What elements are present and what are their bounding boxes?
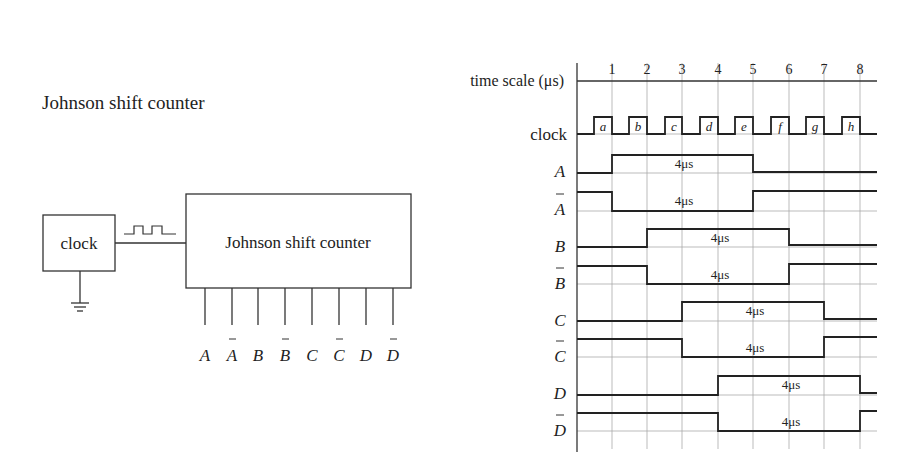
row-label-c: C bbox=[554, 311, 566, 330]
waveform-a-bar bbox=[577, 191, 877, 211]
output-label-d-bar: D bbox=[386, 346, 400, 365]
output-label-c-bar: C bbox=[333, 346, 345, 365]
tick-7: 7 bbox=[821, 62, 828, 77]
waveform-c bbox=[577, 302, 877, 321]
output-label-a: A bbox=[199, 346, 211, 365]
block-diagram bbox=[43, 194, 411, 325]
row-label-b-bar: B bbox=[555, 274, 566, 293]
waveform-d-bar bbox=[577, 411, 877, 431]
clock-pulse-labels: a b c d e f g h bbox=[600, 119, 855, 134]
time-tick-labels: 1 2 3 4 5 6 7 8 bbox=[609, 62, 864, 77]
row-label-b: B bbox=[555, 237, 566, 256]
pulse-label-c: c bbox=[671, 119, 677, 134]
tick-8: 8 bbox=[857, 62, 864, 77]
clock-waveform bbox=[577, 117, 877, 134]
duration-d: 4μs bbox=[782, 377, 801, 392]
pulse-label-a: a bbox=[600, 119, 607, 134]
timing-axes bbox=[577, 63, 877, 452]
tick-2: 2 bbox=[644, 62, 651, 77]
signal-row-labels: A A B B C C D D bbox=[553, 162, 567, 440]
tick-1: 1 bbox=[609, 62, 616, 77]
output-label-b: B bbox=[253, 346, 264, 365]
pulse-label-d: d bbox=[706, 119, 713, 134]
pulse-train-icon bbox=[124, 226, 176, 234]
tick-3: 3 bbox=[679, 62, 686, 77]
duration-c-bar: 4μs bbox=[746, 340, 765, 355]
pulse-label-f: f bbox=[778, 119, 784, 134]
row-label-a-bar: A bbox=[554, 200, 566, 219]
output-label-d: D bbox=[359, 346, 373, 365]
duration-d-bar: 4μs bbox=[782, 414, 801, 429]
counter-box-label: Johnson shift counter bbox=[225, 233, 371, 252]
output-label-b-bar: B bbox=[280, 346, 291, 365]
waveform-d bbox=[577, 376, 877, 395]
output-pins bbox=[205, 288, 393, 325]
duration-a-bar: 4μs bbox=[675, 193, 694, 208]
clock-row-label: clock bbox=[530, 125, 567, 144]
diagram-canvas: clock Johnson shift counter A A B B C C … bbox=[0, 0, 918, 463]
duration-a: 4μs bbox=[675, 156, 694, 171]
signal-row-overbars bbox=[556, 194, 564, 415]
duration-b-bar: 4μs bbox=[711, 267, 730, 282]
output-labels: A A B B C C D D bbox=[199, 346, 400, 365]
row-label-a: A bbox=[554, 162, 566, 181]
duration-labels: 4μs 4μs 4μs 4μs 4μs 4μs 4μs 4μs bbox=[675, 156, 801, 429]
clock-box-label: clock bbox=[61, 234, 98, 253]
pulse-label-g: g bbox=[812, 119, 819, 134]
duration-b: 4μs bbox=[711, 230, 730, 245]
waveform-a bbox=[577, 155, 877, 173]
waveform-c-bar bbox=[577, 337, 877, 357]
output-label-c: C bbox=[306, 346, 318, 365]
timing-grid bbox=[577, 63, 877, 449]
tick-5: 5 bbox=[750, 62, 757, 77]
pulse-label-h: h bbox=[848, 119, 855, 134]
pulse-label-b: b bbox=[635, 119, 642, 134]
row-label-d: D bbox=[553, 384, 567, 403]
row-label-c-bar: C bbox=[554, 347, 566, 366]
tick-6: 6 bbox=[786, 62, 793, 77]
duration-c: 4μs bbox=[746, 303, 765, 318]
ground-icon bbox=[71, 303, 89, 311]
signal-waveforms bbox=[577, 155, 877, 431]
pulse-label-e: e bbox=[741, 119, 747, 134]
tick-4: 4 bbox=[715, 62, 722, 77]
row-label-d-bar: D bbox=[553, 421, 567, 440]
output-label-a-bar: A bbox=[226, 346, 238, 365]
time-scale-label: time scale (μs) bbox=[470, 72, 564, 90]
